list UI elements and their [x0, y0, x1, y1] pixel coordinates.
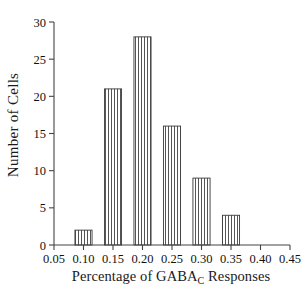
histogram-bar	[75, 230, 92, 245]
x-tick-label: 0.40	[250, 252, 272, 266]
y-tick-label: 5	[40, 201, 46, 215]
y-tick-label: 0	[40, 239, 46, 253]
x-tick-label: 0.10	[73, 252, 95, 266]
x-tick-label: 0.25	[161, 252, 183, 266]
y-tick-label: 30	[34, 16, 47, 30]
histogram-bar	[163, 126, 180, 245]
histogram-bar	[222, 215, 239, 245]
x-tick-label: 0.45	[279, 252, 301, 266]
x-tick-label: 0.35	[220, 252, 242, 266]
histogram-bar	[193, 178, 210, 245]
x-tick-group: 0.050.100.150.200.250.300.350.400.45	[43, 245, 301, 266]
y-tick-label: 25	[34, 53, 47, 67]
x-tick-label: 0.15	[102, 252, 124, 266]
histogram-figure: Number of Cells Percentage of GABAC Resp…	[0, 0, 308, 294]
histogram-bar	[104, 89, 121, 245]
plot-area: 051015202530 0.050.100.150.200.250.300.3…	[0, 0, 308, 294]
y-tick-label: 15	[34, 127, 47, 141]
y-tick-label: 20	[34, 90, 47, 104]
y-tick-label: 10	[34, 164, 47, 178]
histogram-bar	[134, 37, 151, 245]
x-tick-label: 0.05	[43, 252, 65, 266]
x-tick-label: 0.20	[132, 252, 154, 266]
y-tick-group: 051015202530	[34, 16, 55, 253]
bars-group	[75, 37, 240, 245]
x-tick-label: 0.30	[191, 252, 213, 266]
